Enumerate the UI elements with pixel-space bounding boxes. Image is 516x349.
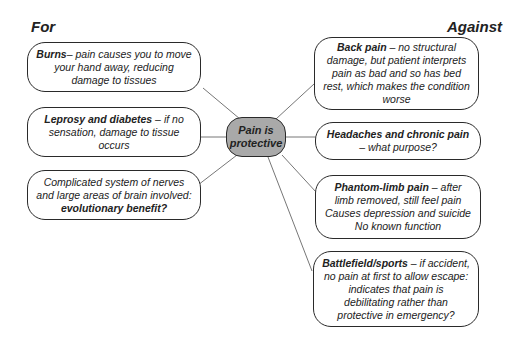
for-item-evolutionary: Complicated system of nerves and large a… (27, 170, 201, 220)
for-item-leprosy: Leprosy and diabetes – if no sensation, … (27, 107, 201, 157)
center-node: Pain isprotective (226, 117, 286, 157)
against-item-back-pain: Back pain – no structural damage, but pa… (314, 37, 479, 110)
against-item-phantom-limb: Phantom-limb pain – after limb removed, … (315, 175, 481, 239)
against-item-battlefield: Battlefield/sports – if accident, no pai… (313, 251, 479, 327)
for-item-burns: Burns– pain causes you to move your hand… (27, 42, 201, 92)
against-item-headaches: Headaches and chronic pain – what purpos… (315, 122, 481, 160)
